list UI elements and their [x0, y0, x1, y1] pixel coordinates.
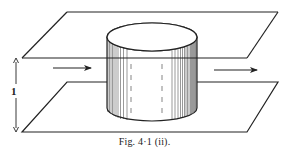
- figure-caption: Fig. 4·1 (ii).: [0, 136, 289, 147]
- diagram-figure: [0, 0, 289, 156]
- dimension-label: 1: [11, 85, 17, 97]
